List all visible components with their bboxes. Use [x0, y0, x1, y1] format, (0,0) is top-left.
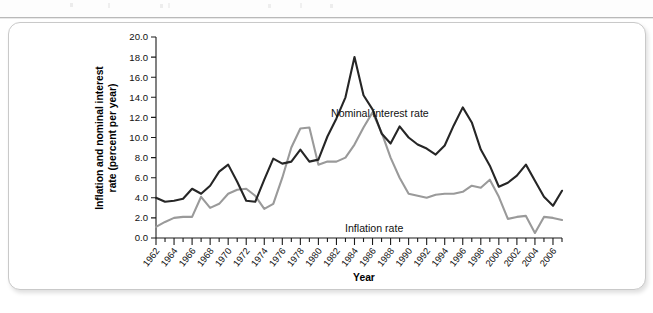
- x-tick-label: 2002: [502, 246, 523, 268]
- x-tick-label: 1982: [321, 246, 342, 268]
- figure-card: 0.02.04.06.08.010.012.014.016.018.020.0 …: [8, 22, 646, 290]
- x-tick-label: 1980: [303, 246, 324, 268]
- inflation-rate-line: [156, 112, 562, 233]
- x-tick-label: 1996: [448, 246, 469, 268]
- y-tick-label: 2.0: [135, 212, 148, 223]
- y-tick-label: 6.0: [135, 172, 148, 183]
- y-tick-marks: [151, 37, 156, 238]
- x-tick-label: 2000: [484, 246, 505, 268]
- y-tick-label: 12.0: [129, 112, 148, 123]
- x-tick-label: 1978: [285, 246, 306, 268]
- y-tick-label: 16.0: [129, 72, 148, 83]
- x-axis: 1962196419661968197019721974197619781980…: [141, 238, 562, 269]
- y-tick-label: 10.0: [129, 132, 148, 143]
- inflation-interest-line-chart: 0.02.04.06.08.010.012.014.016.018.020.0 …: [9, 23, 645, 289]
- x-tick-label: 1998: [466, 246, 487, 268]
- y-tick-label: 20.0: [129, 31, 148, 42]
- x-tick-label: 1986: [357, 246, 378, 268]
- x-tick-label: 1974: [249, 246, 270, 268]
- x-tick-label: 2004: [520, 246, 541, 268]
- y-axis: 0.02.04.06.08.010.012.014.016.018.020.0: [129, 31, 156, 243]
- x-tick-label: 1968: [195, 246, 216, 268]
- y-axis-title-line2: rate (percent per year): [107, 84, 118, 193]
- y-tick-label: 0.0: [135, 232, 148, 243]
- y-tick-label: 8.0: [135, 152, 148, 163]
- x-tick-label: 1964: [159, 246, 180, 268]
- x-tick-label: 1962: [141, 246, 162, 268]
- inflation-rate-label: Inflation rate: [345, 222, 403, 234]
- scan-top-strip: [0, 0, 653, 18]
- y-axis-title: Inflation and nominal interest rate (per…: [94, 66, 118, 210]
- x-axis-title: Year: [353, 272, 375, 283]
- y-tick-label: 4.0: [135, 192, 148, 203]
- nominal-interest-rate-label: Nominal interest rate: [331, 107, 429, 119]
- x-tick-label: 1972: [231, 246, 252, 268]
- page-canvas: 0.02.04.06.08.010.012.014.016.018.020.0 …: [0, 0, 653, 313]
- x-tick-label: 1966: [177, 246, 198, 268]
- y-tick-label: 14.0: [129, 92, 148, 103]
- x-tick-labels: 1962196419661968197019721974197619781980…: [141, 246, 559, 268]
- y-tick-labels: 0.02.04.06.08.010.012.014.016.018.020.0: [129, 31, 148, 243]
- x-tick-label: 2006: [538, 246, 559, 268]
- nominal-interest-rate-line: [156, 57, 562, 206]
- x-tick-marks: [156, 238, 562, 245]
- data-series-group: [156, 57, 562, 233]
- x-tick-label: 1976: [267, 246, 288, 268]
- x-tick-label: 1970: [213, 246, 234, 268]
- x-tick-label: 1988: [376, 246, 397, 268]
- x-tick-label: 1984: [339, 246, 360, 268]
- x-tick-label: 1992: [412, 246, 433, 268]
- y-tick-label: 18.0: [129, 52, 148, 63]
- scan-specks: [0, 0, 653, 16]
- y-axis-title-line1: Inflation and nominal interest: [94, 66, 105, 210]
- chart-svg: 0.02.04.06.08.010.012.014.016.018.020.0 …: [9, 23, 645, 289]
- x-tick-label: 1994: [430, 246, 451, 268]
- x-tick-label: 1990: [394, 246, 415, 268]
